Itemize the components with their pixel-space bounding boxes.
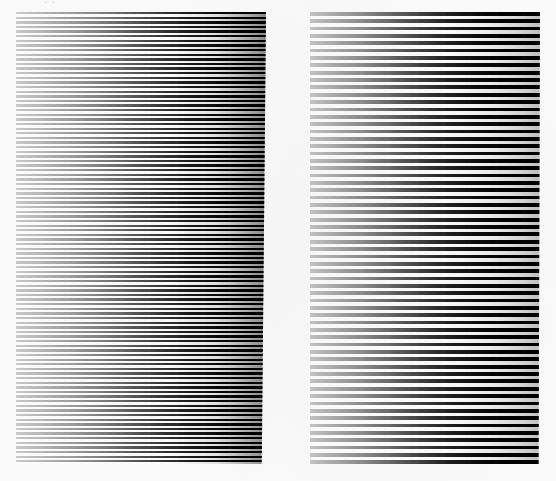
- pencil-annotation: · ·: [44, 0, 56, 8]
- left-panel-stripe-layer: [16, 12, 266, 464]
- right-panel-stripe-layer: [310, 12, 540, 464]
- scan-surface: · ·: [0, 0, 556, 481]
- right-grating-panel: [310, 12, 540, 464]
- left-grating-panel: [16, 12, 266, 464]
